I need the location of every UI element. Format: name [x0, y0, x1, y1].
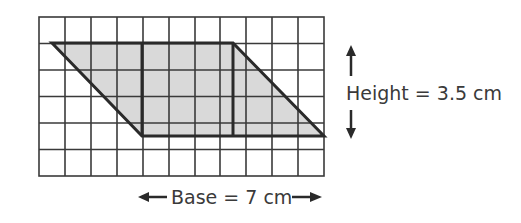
grid [39, 17, 324, 176]
height-label: Height = 3.5 cm [346, 82, 502, 104]
base-label: Base = 7 cm [171, 186, 292, 208]
arrow-left-icon [138, 192, 167, 202]
parallelogram-shape [52, 43, 324, 136]
arrow-up-icon [346, 45, 356, 76]
parallelogram-diagram: Height = 3.5 cm Base = 7 cm [0, 0, 521, 223]
arrow-down-icon [346, 110, 356, 139]
arrow-right-icon [292, 192, 322, 202]
